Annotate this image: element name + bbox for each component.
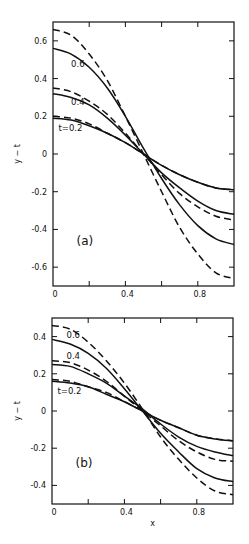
curve-label: 0.6 [66,330,80,340]
curve-label: t=0.2 [57,386,81,396]
y-tick-label: -0.2 [31,188,47,197]
curve-label: t=0.2 [58,123,82,133]
x-tick-label: 0 [52,290,57,299]
panel-label: (b) [76,456,93,470]
y-tick-label: 0.2 [34,112,47,121]
y-tick-label: -0.4 [30,481,46,490]
series-line-solid-t0-6 [53,48,234,244]
y-tick-label: -0.6 [31,263,47,272]
y-tick-label: 0.4 [33,333,46,342]
x-tick-label: 0 [51,508,56,517]
panel-b: 00.40.8-0.4-0.200.20.4y − tx0.60.4t=0.2(… [13,318,233,528]
x-tick-label: 0.4 [121,290,134,299]
y-tick-label: 0.4 [34,75,47,84]
y-tick-label: -0.4 [31,225,47,234]
x-tick-label: 0.4 [120,508,133,517]
y-axis-label: y − t [13,401,22,421]
x-tick-label: 0.8 [193,290,206,299]
y-tick-label: 0.2 [33,370,46,379]
panel-label: (a) [77,234,94,248]
y-tick-label: -0.2 [30,444,46,453]
figure: 00.40.8-0.6-0.4-0.200.20.40.6y − t0.60.4… [0,0,249,544]
y-axis-label: y − t [13,144,22,164]
x-tick-label: 0.8 [192,508,205,517]
panel-a: 00.40.8-0.6-0.4-0.200.20.40.6y − t0.60.4… [13,22,234,299]
curve-label: 0.4 [71,97,85,107]
y-tick-label: 0 [41,407,46,416]
y-tick-label: 0 [42,150,47,159]
curve-label: 0.6 [71,59,85,69]
curve-label: 0.4 [66,351,80,361]
x-axis-label: x [150,519,155,528]
y-tick-label: 0.6 [34,37,47,46]
